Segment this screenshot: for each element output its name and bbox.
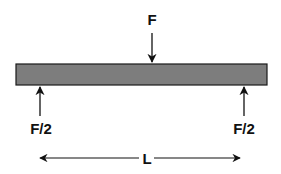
span-label: L bbox=[142, 150, 151, 167]
beam bbox=[16, 64, 267, 85]
left-reaction-label: F/2 bbox=[30, 120, 52, 137]
right-reaction-label: F/2 bbox=[233, 120, 255, 137]
applied-load-label: F bbox=[147, 11, 156, 28]
beam-diagram: F F/2 F/2 L bbox=[0, 0, 281, 174]
